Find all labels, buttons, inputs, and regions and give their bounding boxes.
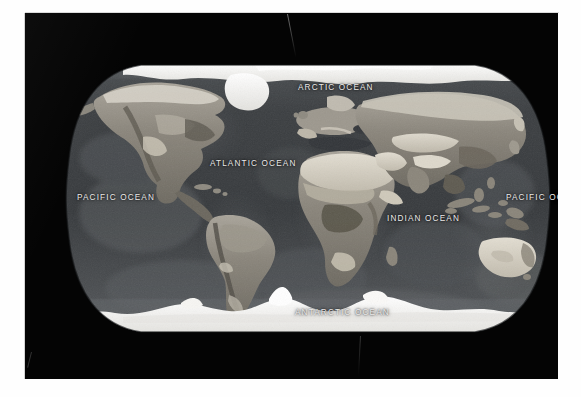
label-arctic-ocean: ARCTIC OCEAN xyxy=(298,84,374,92)
black-photo-plate: ARCTIC OCEAN ATLANTIC OCEAN PACIFIC OCEA… xyxy=(25,13,558,379)
label-pacific-ocean-west: PACIFIC OCEAN xyxy=(77,194,155,202)
label-antarctic-ocean: ANTARCTIC OCEAN xyxy=(295,309,390,317)
label-pacific-ocean-east: PACIFIC OCEAN xyxy=(506,194,558,202)
scanned-photo-page: ARCTIC OCEAN ATLANTIC OCEAN PACIFIC OCEA… xyxy=(0,0,581,397)
label-indian-ocean: INDIAN OCEAN xyxy=(387,215,460,223)
label-atlantic-ocean: ATLANTIC OCEAN xyxy=(210,160,296,168)
world-map: ARCTIC OCEAN ATLANTIC OCEAN PACIFIC OCEA… xyxy=(63,63,553,334)
